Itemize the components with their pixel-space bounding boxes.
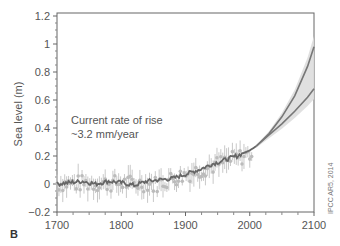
x-tick-label: 2100 — [302, 219, 326, 231]
proxy-point — [179, 170, 183, 174]
proxy-point — [80, 174, 84, 178]
proxy-point — [154, 176, 158, 180]
proxy-point — [86, 187, 90, 191]
proxy-point — [128, 174, 132, 178]
proxy-point — [194, 166, 198, 170]
y-tick-label: 0 — [44, 178, 50, 190]
proxy-point — [152, 189, 156, 193]
proxy-point — [211, 170, 215, 174]
proxy-point — [180, 179, 184, 183]
proxy-point — [242, 155, 246, 159]
y-tick-label: 0.2 — [35, 150, 50, 162]
proxy-point — [109, 189, 113, 193]
proxy-point — [169, 172, 173, 176]
y-tick-label: 1.2 — [35, 10, 50, 22]
y-tick-label: −0.2 — [28, 206, 50, 218]
proxy-point — [98, 186, 102, 190]
proxy-point — [188, 180, 192, 184]
proxy-point — [142, 190, 146, 194]
proxy-point — [250, 155, 254, 159]
y-tick-label: 0.6 — [35, 94, 50, 106]
y-tick-label: 0.4 — [35, 122, 50, 134]
x-tick-label: 1800 — [109, 219, 133, 231]
proxy-point — [74, 187, 78, 191]
proxy-point — [76, 174, 80, 178]
proxy-point — [92, 187, 96, 191]
proxy-point — [61, 189, 65, 193]
proxy-point — [231, 150, 235, 154]
proxy-point — [182, 171, 186, 175]
proxy-point — [177, 180, 181, 184]
proxy-point — [215, 156, 219, 160]
proxy-point — [238, 149, 242, 153]
proxy-point — [240, 162, 244, 166]
proxy-point — [113, 174, 117, 178]
x-tick-label: 2000 — [238, 219, 262, 231]
proxy-point — [173, 180, 177, 184]
proxy-point — [78, 188, 82, 192]
proxy-point — [146, 189, 150, 193]
proxy-point — [155, 190, 159, 194]
y-tick-label: 0.8 — [35, 66, 50, 78]
proxy-point — [219, 155, 223, 159]
x-tick-label: 1700 — [45, 219, 69, 231]
y-tick-label: 1 — [44, 38, 50, 50]
proxy-point — [175, 183, 179, 187]
proxy-point — [136, 186, 140, 190]
credit-text: IPCC AR5, 2014 — [327, 163, 334, 214]
projection-uncertainty-band — [256, 36, 314, 148]
proxy-point — [130, 177, 134, 181]
panel-label: B — [10, 228, 18, 240]
proxy-point — [140, 186, 144, 190]
proxy-point — [204, 174, 208, 178]
sea-level-chart: −0.200.20.40.60.811.21700180019002000210… — [0, 0, 340, 246]
proxy-point — [229, 159, 233, 163]
proxy-point — [121, 186, 125, 190]
annotation-line2: ~3.2 mm/year — [71, 128, 139, 140]
proxy-point — [57, 188, 61, 192]
annotation-line1: Current rate of rise — [71, 114, 163, 126]
proxy-point — [105, 188, 109, 192]
proxy-point — [82, 183, 86, 187]
proxy-point — [165, 186, 169, 190]
x-tick-label: 1900 — [173, 219, 197, 231]
y-axis-label: Sea level (m) — [12, 82, 24, 147]
proxy-point — [65, 185, 69, 189]
